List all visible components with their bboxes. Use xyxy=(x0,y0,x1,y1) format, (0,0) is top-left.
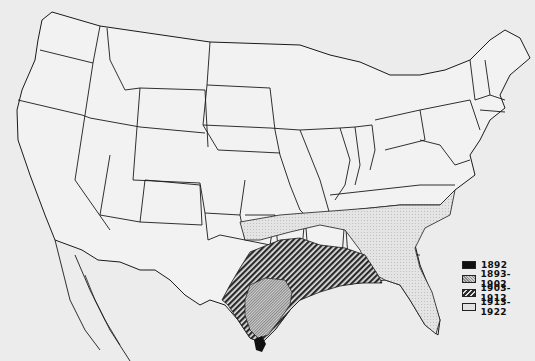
region-1893-1902 xyxy=(245,278,292,338)
legend-label: 1913-1922 xyxy=(481,297,535,317)
swatch-solid-icon xyxy=(462,261,476,269)
swatch-fine-stipple-icon xyxy=(462,275,476,283)
legend-item-1913-1922: 1913-1922 xyxy=(462,300,535,313)
map-legend: 1892 1893-1902 1903-1912 1913-1922 xyxy=(462,258,535,314)
us-map xyxy=(0,0,535,361)
swatch-light-stipple-icon xyxy=(462,303,476,311)
swatch-hatch-icon xyxy=(462,289,476,297)
